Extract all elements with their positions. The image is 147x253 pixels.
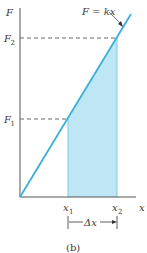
work-area-shading bbox=[68, 38, 117, 197]
f2-sub: 2 bbox=[11, 39, 15, 47]
y-axis-label: F bbox=[5, 7, 14, 18]
x1-sub: 1 bbox=[69, 208, 73, 216]
figure-caption: (b) bbox=[66, 242, 80, 253]
equation-label: F = kx bbox=[81, 6, 116, 17]
arrowhead-icon bbox=[112, 220, 117, 224]
delta-x-label: Δx bbox=[83, 217, 97, 228]
hookes-law-diagram: F = kx F x F 2 F 1 x 1 x 2 Δx (b) bbox=[0, 0, 147, 253]
x-axis-label: x bbox=[139, 202, 145, 213]
x2-sub: 2 bbox=[118, 208, 122, 216]
f1-sub: 1 bbox=[11, 120, 15, 128]
